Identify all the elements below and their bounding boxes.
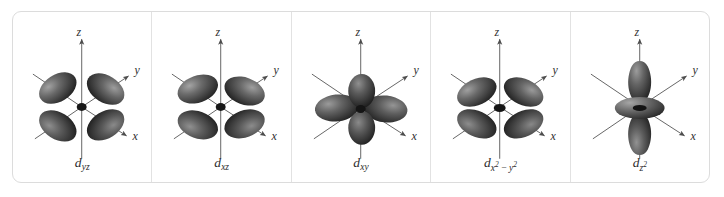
orbital-panel-d-z2: z y x dz2 <box>571 12 709 182</box>
orbital-panel-d-x2-y2: z y x dx2 − y2 <box>431 12 570 182</box>
orbital-label-subscript: xz <box>221 163 229 173</box>
axis-label-y: y <box>691 63 698 77</box>
axis-label-y: y <box>552 63 559 77</box>
orbital-label-subscript: xy <box>360 163 368 173</box>
axis-label-z: z <box>75 25 81 39</box>
axis-label-z: z <box>215 25 221 39</box>
orbital-panel-d-xy: z y x dxy <box>292 12 431 182</box>
orbital-lobes-d-z2 <box>614 61 664 155</box>
orbital-label-subscript: z2 <box>640 163 647 173</box>
axis-label-y: y <box>412 63 419 77</box>
axis-label-z: z <box>354 25 360 39</box>
orbital-label-subscript: x2 − y2 <box>491 163 517 173</box>
orbital-label-d-z2: dz2 <box>571 156 709 173</box>
axis-label-x: x <box>271 129 278 143</box>
orbital-label-d-xy: dxy <box>292 156 430 173</box>
axis-label-y: y <box>273 63 280 77</box>
axis-label-x: x <box>131 129 138 143</box>
orbital-label-d-yz: dyz <box>13 156 151 173</box>
axis-label-x: x <box>550 129 557 143</box>
orbital-label-d-x2-y2: dx2 − y2 <box>431 156 569 173</box>
axis-label-x: x <box>410 129 417 143</box>
axis-label-z: z <box>633 25 639 39</box>
axis-label-x: x <box>689 129 696 143</box>
panel-row: z y x dyz <box>13 12 709 182</box>
d-orbital-figure: z y x dyz <box>0 0 724 197</box>
orbital-label-base: d <box>633 155 640 170</box>
orbital-panel-d-yz: z y x dyz <box>13 12 152 182</box>
orbital-label-d-xz: dxz <box>152 156 290 173</box>
orbital-label-base: d <box>484 155 491 170</box>
orbital-panel-d-xz: z y x dxz <box>152 12 291 182</box>
axis-label-z: z <box>494 25 500 39</box>
orbital-label-subscript: yz <box>82 163 90 173</box>
torus-hole <box>632 105 646 111</box>
orbital-label-base: d <box>75 155 82 170</box>
axis-label-y: y <box>133 63 140 77</box>
